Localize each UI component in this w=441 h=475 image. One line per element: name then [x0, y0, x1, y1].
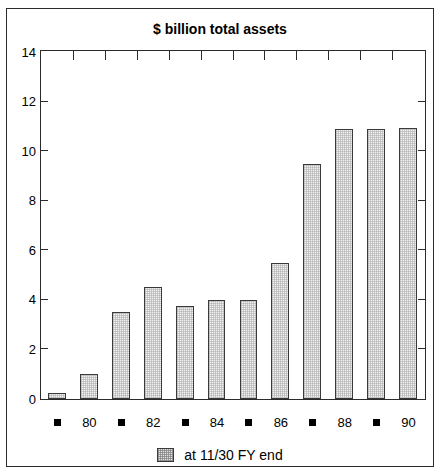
y-axis-tick-mark-right — [418, 299, 425, 300]
y-axis-tick-labels: 02468101214 — [0, 50, 36, 400]
square-marker-icon — [245, 419, 252, 426]
bar — [80, 374, 98, 399]
legend-label: at 11/30 FY end — [184, 447, 282, 463]
bar — [208, 300, 226, 399]
bar — [271, 263, 289, 399]
x-axis-tick-mark — [105, 51, 106, 60]
chart-legend: at 11/30 FY end — [6, 443, 434, 467]
x-axis-square-marker-icon — [297, 413, 329, 433]
y-axis-tick-mark-right — [418, 200, 425, 201]
plot-area — [40, 50, 426, 400]
y-axis-tick-mark-right — [418, 348, 425, 349]
y-axis-tick-label: 8 — [2, 194, 36, 207]
x-axis-tick-label: 80 — [73, 413, 105, 433]
bar — [399, 128, 417, 399]
x-axis-tick-label: 86 — [265, 413, 297, 433]
x-axis-square-marker-icon — [105, 413, 137, 433]
y-axis-tick-mark-right — [418, 101, 425, 102]
x-axis-tick-mark — [233, 51, 234, 60]
x-axis-tick-mark — [137, 51, 138, 60]
y-axis-tick-label: 14 — [2, 45, 36, 58]
y-axis-tick-label: 12 — [2, 95, 36, 108]
y-axis-tick-label: 10 — [2, 144, 36, 157]
hatched-square-swatch-icon — [157, 448, 174, 462]
x-axis-square-marker-icon — [42, 413, 74, 433]
bar — [240, 300, 258, 399]
y-axis-tick-label: 2 — [2, 342, 36, 355]
x-axis-square-marker-icon — [169, 413, 201, 433]
x-axis-tick-mark — [296, 51, 297, 60]
square-marker-icon — [373, 419, 380, 426]
x-axis-square-marker-icon — [233, 413, 265, 433]
y-axis-tick-mark-right — [418, 249, 425, 250]
y-axis-tick-mark — [41, 101, 48, 102]
bar — [48, 393, 66, 399]
x-axis-tick-label: 88 — [329, 413, 361, 433]
y-axis-tick-mark — [41, 348, 48, 349]
square-marker-icon — [182, 419, 189, 426]
x-axis-square-marker-icon — [361, 413, 393, 433]
x-axis-tick-mark — [392, 51, 393, 60]
square-marker-icon — [309, 419, 316, 426]
y-axis-tick-mark — [41, 200, 48, 201]
y-axis-tick-mark — [41, 249, 48, 250]
bar — [112, 312, 130, 399]
bar — [335, 129, 353, 399]
square-marker-icon — [118, 419, 125, 426]
x-axis-tick-mark — [73, 51, 74, 60]
x-axis-tick-mark — [328, 51, 329, 60]
plot-inner-area — [41, 51, 425, 399]
square-marker-icon — [54, 419, 61, 426]
bar — [144, 287, 162, 399]
x-axis-tick-mark — [169, 51, 170, 60]
x-axis-tick-label: 84 — [201, 413, 233, 433]
x-axis-tick-mark — [360, 51, 361, 60]
bar — [303, 164, 321, 399]
x-axis-tick-mark — [201, 51, 202, 60]
y-axis-tick-mark — [41, 150, 48, 151]
y-axis-tick-mark — [41, 299, 48, 300]
bar — [176, 306, 194, 399]
chart-figure: $ billion total assets 02468101214 80828… — [0, 0, 441, 475]
y-axis-tick-label: 4 — [2, 293, 36, 306]
x-axis-tick-mark — [264, 51, 265, 60]
bar — [367, 129, 385, 399]
y-axis-tick-label: 0 — [2, 392, 36, 405]
x-axis-tick-label: 82 — [137, 413, 169, 433]
x-axis-tick-label: 90 — [393, 413, 425, 433]
y-axis-tick-label: 6 — [2, 243, 36, 256]
page-title: $ billion total assets — [6, 20, 434, 38]
x-axis-tick-labels: 808284868890 — [40, 413, 426, 433]
y-axis-tick-mark-right — [418, 150, 425, 151]
